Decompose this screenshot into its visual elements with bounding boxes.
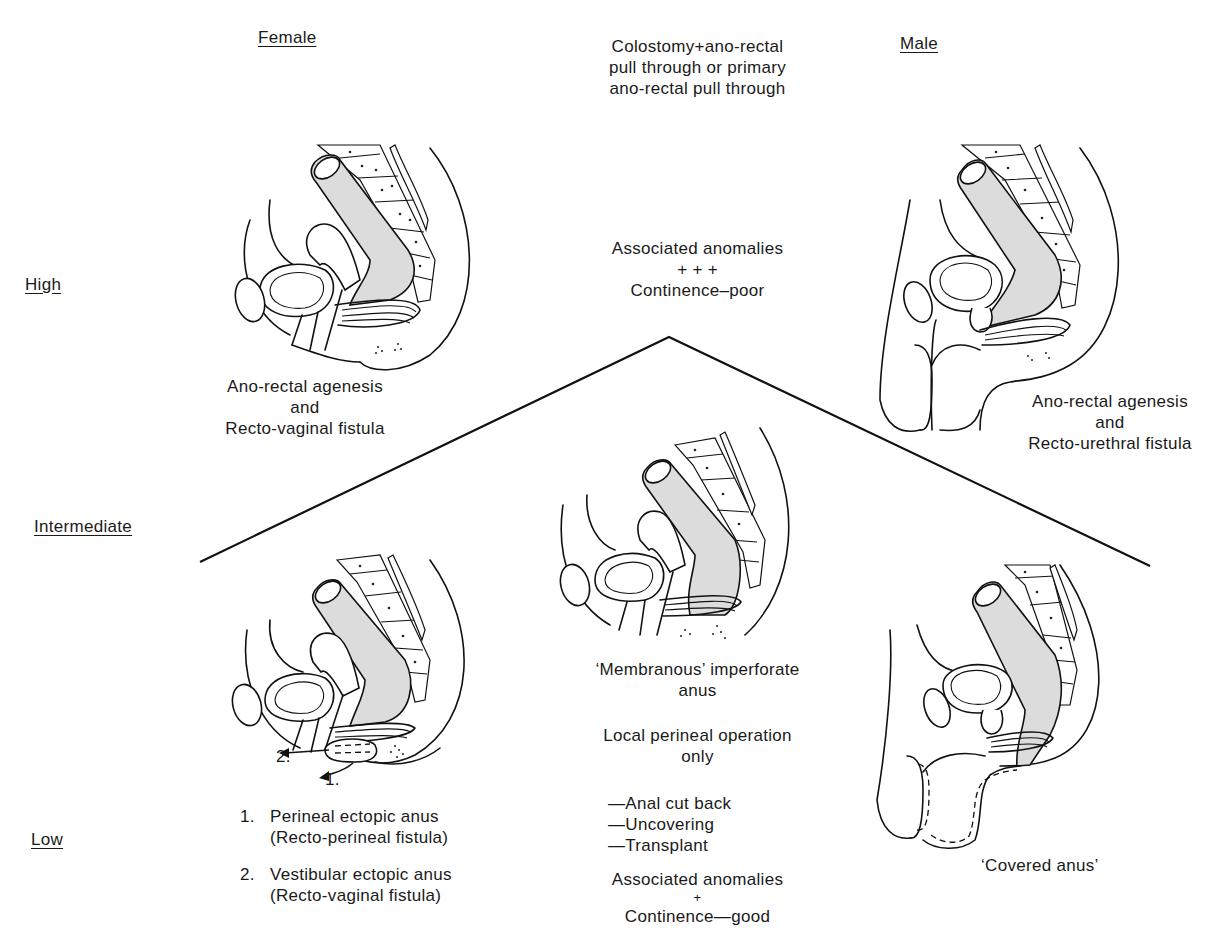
list-number: 1. (240, 806, 270, 848)
list-item-perineal: 1. Perineal ectopic anus (Recto-perineal… (240, 806, 452, 848)
membranous-imperforate-anus-figure (545, 420, 795, 650)
list-number: 2. (240, 864, 270, 906)
treatment-line: only (555, 746, 840, 767)
male-high-caption: Ano-rectal agenesis and Recto-urethral f… (995, 391, 1225, 454)
caption-line: Recto-urethral fistula (995, 433, 1225, 454)
low-treatment-text: Local perineal operation only (555, 725, 840, 767)
female-high-caption: Ano-rectal agenesis and Recto-vaginal fi… (190, 376, 420, 439)
list-title: Perineal ectopic anus (270, 806, 448, 827)
covered-anus-caption: ‘Covered anus’ (981, 855, 1099, 876)
prognosis-line: Associated anomalies (555, 869, 840, 890)
female-high-anomaly-figure (230, 140, 490, 380)
caption-line: and (190, 397, 420, 418)
caption-line: Recto-vaginal fistula (190, 418, 420, 439)
female-low-anomaly-figure (225, 550, 495, 780)
caption-line: and (995, 412, 1225, 433)
low-operation-options: —Anal cut back —Uncovering —Transplant (608, 793, 731, 856)
caption-line: anus (555, 680, 840, 701)
list-subtitle: (Recto-vaginal fistula) (270, 885, 452, 906)
option-anal-cut-back: —Anal cut back (608, 793, 731, 814)
caption-line: Ano-rectal agenesis (995, 391, 1225, 412)
arrow-label-2: 2. (276, 746, 291, 767)
arrow-label-1: 1. (325, 769, 340, 790)
list-item-vestibular: 2. Vestibular ectopic anus (Recto-vagina… (240, 864, 452, 906)
option-transplant: —Transplant (608, 835, 731, 856)
caption-line: Ano-rectal agenesis (190, 376, 420, 397)
list-subtitle: (Recto-perineal fistula) (270, 827, 448, 848)
treatment-line: Local perineal operation (555, 725, 840, 746)
list-title: Vestibular ectopic anus (270, 864, 452, 885)
prognosis-line: Continence—good (555, 906, 840, 927)
low-prognosis-text: Associated anomalies + Continence—good (555, 869, 840, 927)
prognosis-line: + (555, 890, 840, 906)
male-covered-anus-figure (865, 560, 1125, 860)
caption-line: ‘Membranous’ imperforate (555, 659, 840, 680)
membranous-caption: ‘Membranous’ imperforate anus (555, 659, 840, 701)
female-low-list: 1. Perineal ectopic anus (Recto-perineal… (240, 806, 452, 906)
option-uncovering: —Uncovering (608, 814, 731, 835)
